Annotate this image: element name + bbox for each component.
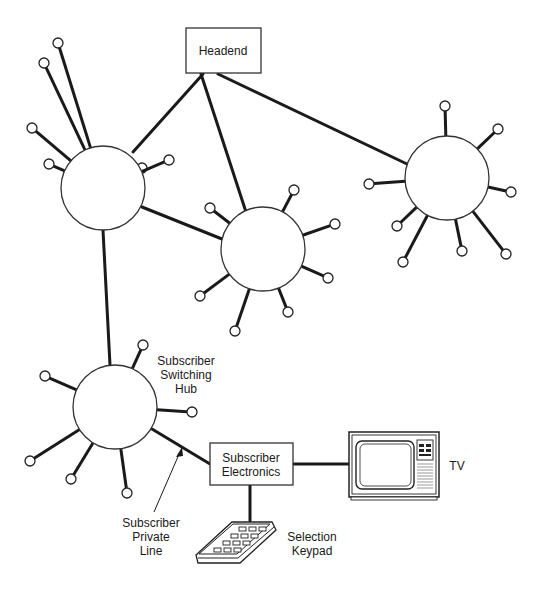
subscriber-terminal-icon — [501, 249, 511, 259]
private-line-label-line2: Private — [132, 530, 170, 544]
hub-1 — [61, 146, 145, 230]
switching-hub-label: Subscriber Switching Hub — [157, 354, 214, 396]
trunk-link-hub-1-hub-4 — [103, 230, 110, 365]
subscriber-drop — [283, 194, 292, 211]
subscriber-drop — [405, 215, 427, 257]
annotation-arrow-line — [154, 452, 180, 512]
subscriber-terminal-icon — [205, 203, 215, 213]
network-diagram: Headend Subscriber Switching Hub Subscri… — [0, 0, 540, 590]
subscriber-electronics-line2: Electronics — [222, 465, 281, 479]
subscriber-drop — [157, 410, 187, 412]
subscriber-drop — [204, 274, 229, 293]
private-line-annotation: Subscriber Private Line — [122, 447, 183, 558]
subscriber-drop — [303, 226, 331, 236]
subscriber-terminal-icon — [187, 407, 197, 417]
private-line-label-line1: Subscriber — [122, 516, 179, 530]
subscriber-terminal-icon — [457, 246, 467, 256]
subscriber-drop — [488, 187, 506, 191]
subscriber-terminal-icon — [27, 123, 37, 133]
subscriber-drop — [301, 266, 323, 276]
subscriber-drop — [455, 219, 461, 246]
subscriber-terminal-icon — [195, 291, 205, 301]
subscriber-terminal-icon — [164, 155, 174, 165]
trunk-link-headend-hub-3 — [218, 74, 407, 164]
subscriber-drop — [477, 132, 494, 148]
subscriber-terminal-icon — [330, 219, 340, 229]
arrowhead-icon — [176, 447, 183, 457]
subscriber-electronics-line1: Subscriber — [222, 451, 279, 465]
keypad-label-line1: Selection — [287, 530, 336, 544]
subscriber-terminal-icon — [53, 38, 63, 48]
subscriber-drop — [237, 289, 250, 327]
tv-icon — [349, 432, 439, 500]
subscriber-terminal-icon — [40, 371, 50, 381]
hub-2 — [221, 207, 305, 291]
subscriber-drop — [59, 48, 90, 148]
hub-4 — [73, 365, 157, 449]
subscriber-terminal-icon — [25, 456, 35, 466]
subscriber-drop — [214, 211, 230, 223]
subscriber-drop — [121, 449, 127, 488]
subscriber-drop — [74, 443, 93, 475]
subscriber-terminal-icon — [289, 185, 299, 195]
subscriber-drop — [473, 211, 503, 250]
tv-label: TV — [449, 459, 464, 473]
trunk-link-headend-hub-1 — [133, 74, 203, 152]
subscriber-drop — [374, 181, 405, 183]
subscriber-drop — [401, 207, 417, 222]
keypad-label-line2: Keypad — [292, 544, 333, 558]
hub-label-line2: Switching — [160, 368, 211, 382]
subscriber-drop — [132, 350, 141, 369]
subscriber-terminal-icon — [230, 326, 240, 336]
switching-hubs — [61, 136, 489, 449]
keypad-icon — [196, 522, 276, 563]
headend-label: Headend — [199, 44, 248, 58]
subscriber-drop — [54, 166, 65, 171]
subscriber-drop — [50, 378, 77, 390]
trunk-link-hub-4-subscriber_electronics — [152, 429, 210, 464]
subscriber-terminal-icon — [440, 101, 450, 111]
hub-label-line3: Hub — [175, 382, 197, 396]
subscriber-terminal-icon — [122, 488, 132, 498]
subscriber-drop — [445, 111, 446, 136]
subscriber-terminal-icon — [66, 474, 76, 484]
subscriber-terminal-icon — [493, 124, 503, 134]
hub-label-line1: Subscriber — [157, 354, 214, 368]
subscriber-terminal-icon — [323, 273, 333, 283]
subscriber-terminal-icon — [398, 257, 408, 267]
subscriber-terminal-icon — [138, 340, 148, 350]
subscriber-terminal-icon — [44, 159, 54, 169]
subscriber-terminal-icon — [39, 58, 49, 68]
private-line-label-line3: Line — [140, 544, 163, 558]
trunk-link-headend-hub-2 — [201, 74, 246, 212]
subscriber-terminal-icon — [364, 179, 374, 189]
headend-node: Headend — [186, 28, 261, 73]
subscriber-terminal-icon — [506, 187, 516, 197]
subscriber-drop — [36, 131, 71, 161]
subscriber-terminal-icon — [392, 221, 402, 231]
subscriber-drop — [278, 288, 286, 307]
subscriber-electronics-node: Subscriber Electronics — [210, 443, 293, 485]
subscriber-drop — [34, 430, 79, 459]
subscriber-terminal-icon — [283, 307, 293, 317]
diagram-svg: Headend Subscriber Switching Hub Subscri… — [0, 0, 540, 590]
hub-3 — [405, 136, 489, 220]
